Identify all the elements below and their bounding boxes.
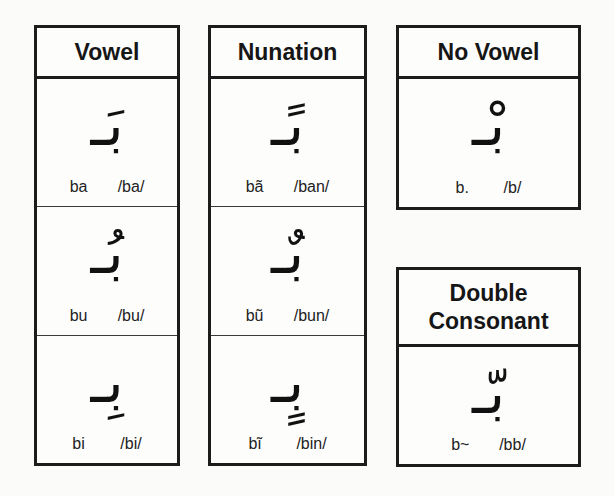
no-vowel-table: No Vowel بْـ b. /b/: [396, 25, 581, 210]
double-consonant-table: Double Consonant بّـ b~ /bb/: [396, 267, 581, 467]
vowel-table: Vowel بَـ ba /ba/ بُـ bu /bu/ بِـ bi /bi…: [34, 25, 180, 466]
vowel-header: Vowel: [37, 28, 177, 79]
arabic-ba-kasra-glyph: بِـ: [90, 344, 123, 420]
ipa: /b/: [504, 179, 522, 197]
vowel-row-fatha: بَـ ba /ba/: [37, 79, 177, 206]
no-vowel-header: No Vowel: [399, 28, 578, 79]
arabic-ba-shadda-glyph: بّـ: [472, 355, 505, 431]
transliteration: b~: [451, 436, 477, 454]
pronunciation-label: bi /bi/: [37, 435, 177, 453]
pronunciation-label: bã /ban/: [211, 178, 364, 196]
transliteration: bĩ: [248, 435, 274, 453]
ipa: /bb/: [499, 436, 526, 454]
no-vowel-row-sukun: بْـ b. /b/: [399, 79, 578, 207]
header-line-2: Consonant: [428, 307, 548, 335]
nunation-row-dammatan: بٌـ bũ /bun/: [211, 206, 364, 334]
arabic-ba-kasratan-glyph: بٍـ: [271, 344, 304, 420]
vowel-row-damma: بُـ bu /bu/: [37, 206, 177, 334]
nunation-table: Nunation بًـ bã /ban/ بٌـ bũ /bun/ بٍـ b…: [208, 25, 367, 466]
transliteration: bu: [70, 307, 96, 325]
arabic-ba-sukun-glyph: بْـ: [472, 87, 505, 163]
transliteration: bũ: [246, 307, 272, 325]
transliteration: ba: [70, 178, 96, 196]
ipa: /bun/: [294, 307, 330, 325]
arabic-ba-damma-glyph: بُـ: [90, 215, 123, 291]
nunation-row-kasratan: بٍـ bĩ /bin/: [211, 335, 364, 463]
arabic-ba-dammatan-glyph: بٌـ: [271, 215, 304, 291]
vowel-row-kasra: بِـ bi /bi/: [37, 335, 177, 463]
transliteration: bi: [72, 435, 98, 453]
double-consonant-header: Double Consonant: [399, 270, 578, 347]
pronunciation-label: b~ /bb/: [399, 436, 578, 454]
ipa: /ban/: [294, 178, 330, 196]
arabic-ba-fathatan-glyph: بًـ: [271, 87, 304, 163]
header-line-1: Double: [450, 279, 528, 307]
ipa: /bi/: [120, 435, 141, 453]
ipa: /bin/: [296, 435, 326, 453]
transliteration: bã: [246, 178, 272, 196]
pronunciation-label: b. /b/: [399, 179, 578, 197]
transliteration: b.: [456, 179, 482, 197]
nunation-header: Nunation: [211, 28, 364, 79]
arabic-ba-fatha-glyph: بَـ: [90, 87, 123, 163]
ipa: /bu/: [118, 307, 145, 325]
pronunciation-label: bũ /bun/: [211, 307, 364, 325]
nunation-row-fathatan: بًـ bã /ban/: [211, 79, 364, 206]
pronunciation-label: bu /bu/: [37, 307, 177, 325]
pronunciation-label: bĩ /bin/: [211, 435, 364, 453]
pronunciation-label: ba /ba/: [37, 178, 177, 196]
ipa: /ba/: [118, 178, 145, 196]
double-consonant-row-shadda: بّـ b~ /bb/: [399, 347, 578, 464]
